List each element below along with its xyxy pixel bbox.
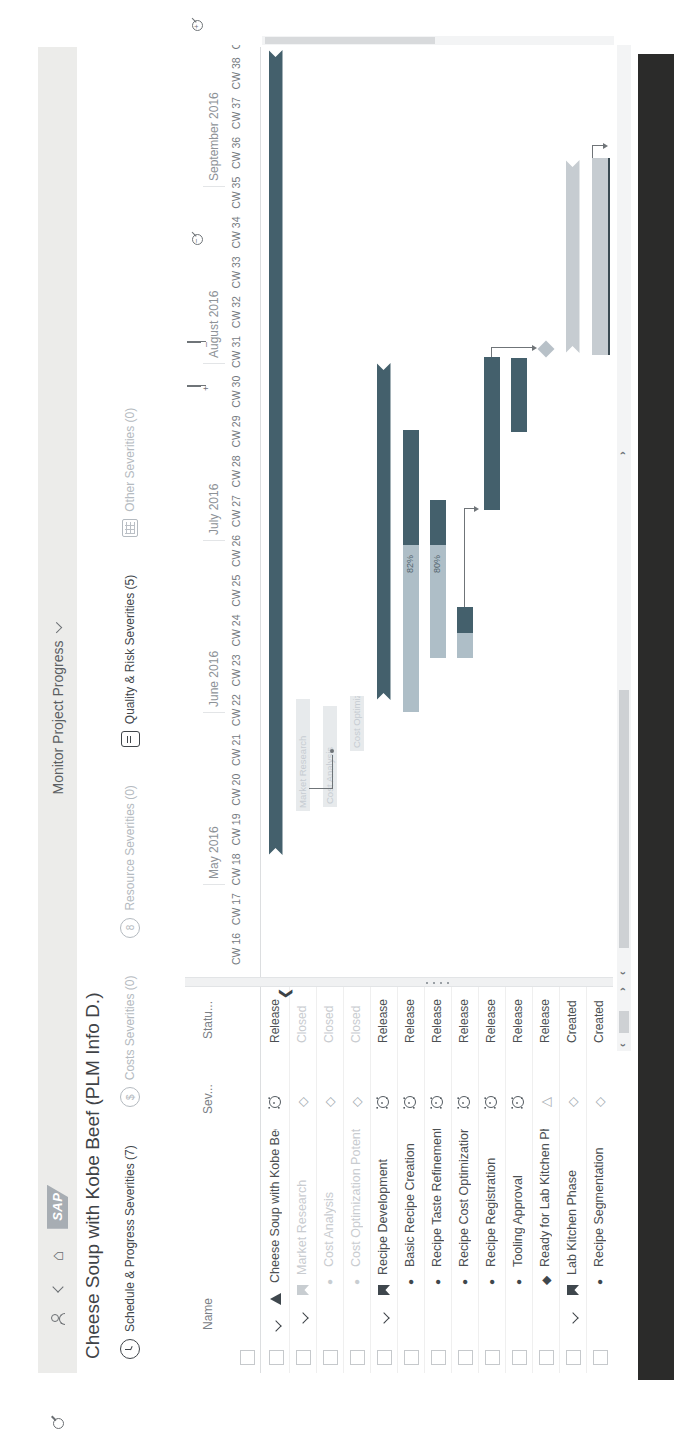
phase-icon (567, 1285, 579, 1295)
task-icon: ● (351, 1279, 363, 1285)
week-label: CW 29 (230, 416, 242, 448)
week-label: CW 28 (230, 455, 242, 487)
week-label: CW 22 (230, 694, 242, 726)
gantt-bar[interactable]: Market Research (296, 699, 310, 811)
row-checkbox[interactable] (296, 1350, 311, 1365)
column-header-name[interactable]: Name (201, 1298, 215, 1330)
task-icon: ● (324, 1279, 336, 1285)
kpi-label: Quality & Risk Severities (5) (123, 575, 137, 724)
week-label: CW 33 (230, 256, 242, 288)
splitter-collapse-icon[interactable]: ❮ (277, 988, 292, 999)
week-label: CW 17 (230, 893, 242, 925)
kpi-label: Other Severities (0) (123, 408, 137, 512)
table-row[interactable]: ●Recipe RegistrationReleased (478, 979, 506, 1373)
table-row[interactable]: ●Basic Recipe CreationReleased (397, 979, 425, 1373)
table-row[interactable]: ●Recipe Cost OptimizationReleased (451, 979, 479, 1373)
row-checkbox[interactable] (431, 1350, 446, 1365)
row-name: Cost Analysis (322, 1129, 336, 1267)
table-row[interactable]: ●Tooling ApprovalReleased (505, 979, 533, 1373)
month-label: May 2016 (207, 826, 221, 879)
row-checkbox[interactable] (377, 1350, 392, 1365)
row-checkbox[interactable] (323, 1350, 338, 1365)
tree-table-rows: Cheese Soup with Kobe Beef (PLM Info D.)… (262, 979, 613, 1373)
table-row[interactable]: ●Cost Analysis◇Closed (316, 979, 344, 1373)
row-status: Released (484, 999, 498, 1043)
week-label: CW 18 (230, 853, 242, 885)
gantt-hscrollbar-thumb[interactable] (619, 690, 629, 948)
table-hscrollbar-thumb[interactable] (619, 1011, 629, 1033)
expander-icon[interactable] (567, 1312, 578, 1323)
month-separator (203, 363, 225, 364)
kpi-chip[interactable]: Schedule & Progress Severities (7) (120, 1145, 140, 1359)
chevron-down-icon[interactable] (50, 622, 61, 633)
kpi-chip[interactable]: Quality & Risk Severities (5) (121, 575, 140, 747)
table-row[interactable]: Lab Kitchen Phase◇Created (559, 979, 587, 1373)
search-icon[interactable] (49, 1413, 65, 1429)
table-row[interactable]: Recipe DevelopmentReleased (370, 979, 398, 1373)
row-checkbox[interactable] (512, 1350, 527, 1365)
row-checkbox[interactable] (269, 1350, 284, 1365)
row-status: Released (403, 999, 417, 1043)
gantt-bar[interactable] (430, 500, 446, 658)
gantt-bar-remaining-segment (403, 430, 419, 545)
kpi-chip[interactable]: 8Resource Severities (0) (120, 785, 140, 937)
expander-icon[interactable] (378, 1312, 389, 1323)
expander-icon[interactable] (270, 1320, 281, 1331)
row-checkbox[interactable] (593, 1350, 608, 1365)
column-header-severity[interactable]: Sev... (201, 1084, 215, 1114)
select-all-checkbox[interactable] (240, 1350, 255, 1365)
severity-diamond-icon: ◇ (323, 1094, 336, 1110)
gantt-milestone-diamond[interactable] (537, 341, 554, 358)
connector-arrowhead (603, 143, 608, 149)
table-row[interactable]: ●Recipe Segmentation◇Created (586, 979, 613, 1373)
gantt-bar[interactable] (511, 358, 527, 432)
kpi-chip[interactable]: $Costs Severities (0) (120, 976, 140, 1108)
row-checkbox[interactable] (539, 1350, 554, 1365)
gantt-bar[interactable] (566, 160, 580, 353)
table-chart-splitter[interactable] (185, 977, 613, 987)
relationship-connector (491, 347, 532, 348)
gantt-hscroll-right-icon[interactable]: › (616, 451, 628, 455)
shell-app-title[interactable]: Monitor Project Progress (50, 640, 66, 794)
task-icon: ● (459, 1279, 471, 1285)
connector-arrowhead (474, 506, 479, 512)
gantt-hscroll-left-icon[interactable]: ‹ (616, 971, 628, 975)
week-label: CW 19 (230, 814, 242, 846)
table-hscroll-left-icon[interactable]: ‹ (616, 1043, 628, 1047)
expander-icon[interactable] (297, 1312, 308, 1323)
row-status: Created (565, 999, 579, 1043)
week-label: CW 21 (230, 734, 242, 766)
table-row[interactable]: ●Cost Optimization Potential◇Closed (343, 979, 371, 1373)
progress-percent-label: 80% (432, 555, 442, 573)
gantt-bar[interactable]: Cost Analysis (323, 706, 337, 807)
footer-black-bar (638, 54, 674, 1380)
gantt-bar[interactable] (484, 357, 500, 510)
row-status: Closed (322, 999, 336, 1043)
gantt-bar[interactable]: Cost Optimization Pot (350, 696, 364, 751)
table-hscroll-right-icon[interactable]: › (616, 987, 628, 991)
row-checkbox[interactable] (458, 1350, 473, 1365)
kpi-label: Schedule & Progress Severities (7) (123, 1145, 137, 1332)
kpi-chip[interactable]: Other Severities (0) (122, 408, 138, 537)
gantt-bar[interactable] (592, 158, 610, 355)
row-status: Created (592, 999, 606, 1043)
table-row[interactable]: ◆Ready for Lab Kitchen Phase△Released (532, 979, 560, 1373)
severity-alert-icon (431, 1094, 446, 1110)
week-label: CW 30 (230, 376, 242, 408)
row-checkbox[interactable] (485, 1350, 500, 1365)
gantt-bar[interactable] (269, 50, 283, 855)
progress-percent-label: 82% (405, 555, 415, 573)
table-row[interactable]: Market Research◇Closed (289, 979, 317, 1373)
vscrollbar-thumb[interactable] (265, 37, 435, 44)
column-header-status[interactable]: Statu... (201, 1001, 215, 1039)
row-checkbox[interactable] (404, 1350, 419, 1365)
row-name: Recipe Segmentation (592, 1129, 606, 1267)
gantt-bar[interactable] (377, 363, 391, 700)
gantt-bar[interactable] (457, 607, 473, 658)
table-row[interactable]: ●Recipe Taste RefinementReleased (424, 979, 452, 1373)
table-row[interactable]: Cheese Soup with Kobe Beef (PLM Info D.)… (262, 979, 290, 1373)
row-checkbox[interactable] (566, 1350, 581, 1365)
month-separator (203, 540, 225, 541)
splitter-grip[interactable] (423, 982, 449, 984)
row-checkbox[interactable] (350, 1350, 365, 1365)
